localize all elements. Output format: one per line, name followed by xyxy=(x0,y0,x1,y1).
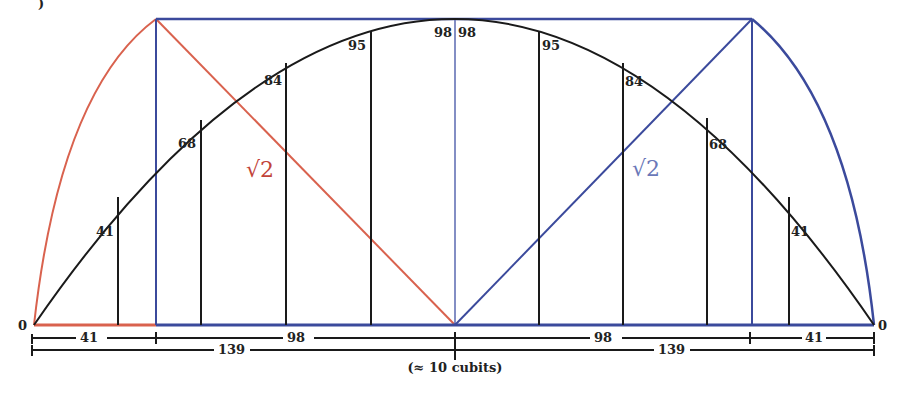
ordinate-label: 68 xyxy=(178,136,196,151)
dim-label: 98 xyxy=(594,330,612,345)
ordinate-label: 95 xyxy=(542,38,560,53)
ordinate-label: 68 xyxy=(709,137,727,152)
red-arc xyxy=(34,19,156,325)
corner-fragment: ) xyxy=(38,0,44,11)
dimension-row-1 xyxy=(32,332,874,360)
ordinate-label: 98 xyxy=(458,25,476,40)
ordinate-label: 95 xyxy=(348,38,366,53)
cubit-arc-diagram: ) 41 68 84 95 98 98 95 84 68 41 0 0 √2 √… xyxy=(0,0,905,398)
end-label-left: 0 xyxy=(18,318,27,333)
dimension-row-2 xyxy=(32,345,874,356)
sqrt2-label-blue: √2 xyxy=(632,156,660,181)
dim-label: 139 xyxy=(218,342,245,357)
ordinate-label: 98 xyxy=(434,25,452,40)
blue-arc xyxy=(752,19,874,325)
ordinate-label: 41 xyxy=(791,224,809,239)
black-curve xyxy=(34,19,874,325)
dim-label: 139 xyxy=(658,342,685,357)
dim-label: 41 xyxy=(805,330,823,345)
ordinates xyxy=(118,31,789,325)
end-label-right: 0 xyxy=(878,318,887,333)
ordinate-label: 41 xyxy=(96,224,114,239)
caption: (≈ 10 cubits) xyxy=(407,360,502,375)
sqrt2-label-red: √2 xyxy=(246,157,274,182)
ordinate-label: 84 xyxy=(264,73,282,88)
dim-label: 98 xyxy=(287,330,305,345)
dim-label: 41 xyxy=(80,330,98,345)
ordinate-label: 84 xyxy=(625,74,643,89)
